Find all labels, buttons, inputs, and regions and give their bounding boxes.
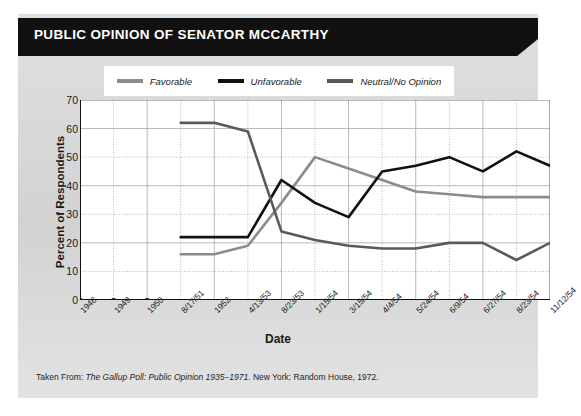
page-title: PUBLIC OPINION OF SENATOR MCCARTHY — [34, 27, 329, 42]
y-tick-label: 50 — [56, 152, 78, 163]
legend-item-neutral: Neutral/No Opinion — [327, 76, 441, 87]
y-tick-label: 20 — [56, 238, 78, 249]
legend-label-neutral: Neutral/No Opinion — [360, 76, 441, 87]
y-tick-label: 40 — [56, 181, 78, 192]
chart-plot-area: Percent of Respondents 010203040506070 1… — [18, 100, 538, 360]
y-tick-label: 0 — [56, 295, 78, 306]
legend-item-unfavorable: Unfavorable — [218, 76, 302, 87]
x-axis-title: Date — [198, 332, 358, 346]
y-tick-label: 70 — [56, 95, 78, 106]
y-tick-label: 30 — [56, 209, 78, 220]
legend-item-favorable: Favorable — [117, 76, 192, 87]
y-tick-label: 60 — [56, 124, 78, 135]
source-title: The Gallup Poll: Public Opinion 1935–197… — [86, 372, 249, 382]
y-axis-ticks: 010203040506070 — [54, 100, 78, 300]
legend-label-unfavorable: Unfavorable — [251, 76, 302, 87]
legend-swatch-favorable — [117, 79, 143, 83]
source-suffix: . New York: Random House, 1972. — [248, 372, 378, 382]
legend-label-favorable: Favorable — [150, 76, 192, 87]
y-tick-label: 10 — [56, 266, 78, 277]
legend-swatch-neutral — [327, 79, 353, 83]
x-tick-label: 11/12/54 — [548, 285, 578, 315]
chart-legend: Favorable Unfavorable Neutral/No Opinion — [104, 66, 454, 96]
legend-swatch-unfavorable — [218, 79, 244, 83]
source-citation: Taken From: The Gallup Poll: Public Opin… — [36, 372, 379, 382]
source-prefix: Taken From: — [36, 372, 86, 382]
chart-canvas — [80, 100, 550, 300]
